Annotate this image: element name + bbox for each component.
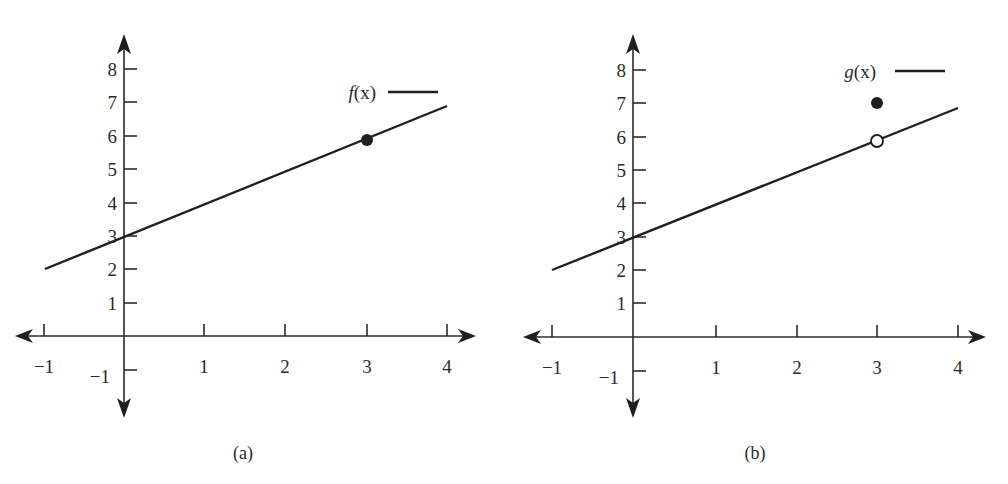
open-point-icon [871, 135, 883, 147]
y-tick-label: 7 [108, 92, 118, 113]
x-tick-label: 4 [442, 356, 452, 377]
y-tick-label: 5 [617, 160, 627, 181]
y-tick-label: 1 [617, 293, 627, 314]
figure-canvas: −1 1 2 3 4 8 7 6 5 4 3 2 1 −1 f(x) (a) [0, 0, 1008, 484]
legend-a: f(x) [349, 82, 438, 104]
legend-label-f: f(x) [349, 82, 376, 104]
panel-a: −1 1 2 3 4 8 7 6 5 4 3 2 1 −1 f(x) (a) [15, 34, 476, 464]
y-tick-label: 6 [108, 126, 118, 147]
x-ticks-a [44, 324, 447, 336]
x-tick-label: −1 [542, 357, 562, 378]
function-line-g [552, 108, 958, 270]
y-tick-label: 8 [108, 59, 118, 80]
filled-point-icon [361, 134, 373, 146]
function-line-f [45, 106, 447, 269]
x-tick-label: 2 [280, 356, 290, 377]
y-tick-label: 6 [617, 127, 627, 148]
y-tick-label: 2 [617, 260, 627, 281]
filled-point-icon [871, 97, 883, 109]
y-tick-label: 4 [108, 193, 118, 214]
y-tick-label: 1 [108, 293, 118, 314]
panel-caption-b: (b) [745, 443, 766, 464]
y-tick-label: −1 [90, 366, 110, 387]
x-tick-label: 1 [711, 357, 721, 378]
legend-b: g(x) [844, 61, 945, 83]
y-tick-label: −1 [599, 367, 619, 388]
x-tick-label: −1 [34, 356, 54, 377]
y-tick-label: 4 [617, 193, 627, 214]
y-tick-label: 7 [617, 93, 627, 114]
panel-caption-a: (a) [233, 443, 253, 464]
x-tick-label: 4 [953, 357, 963, 378]
y-ticks-a [124, 69, 137, 370]
y-tick-label: 8 [617, 60, 627, 81]
x-ticks-b [552, 325, 958, 337]
y-tick-label: 5 [108, 159, 118, 180]
x-tick-label: 3 [872, 357, 882, 378]
x-tick-label: 3 [362, 356, 372, 377]
x-tick-label: 1 [199, 356, 209, 377]
y-ticks-b [633, 70, 646, 371]
y-tick-label: 2 [108, 259, 118, 280]
legend-label-g: g(x) [844, 61, 876, 83]
x-tick-label: 2 [792, 357, 802, 378]
panel-b: −1 1 2 3 4 8 7 6 5 4 3 2 1 −1 g(x) (b) [523, 34, 986, 464]
